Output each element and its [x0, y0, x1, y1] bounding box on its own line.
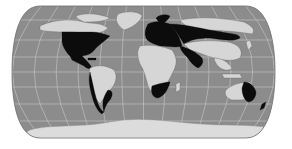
caribbean-islands [88, 58, 96, 60]
indonesia-land [222, 74, 242, 78]
madagascar-land [176, 82, 180, 92]
world-map [0, 0, 292, 149]
